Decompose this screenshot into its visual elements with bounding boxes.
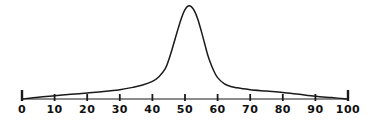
x-axis-tick-label: 20 <box>79 104 95 115</box>
x-axis-tick-label: 90 <box>307 104 323 115</box>
x-axis-tick-label: 40 <box>144 104 160 115</box>
distribution-curve-path <box>22 6 348 99</box>
x-axis-tick-label: 50 <box>177 104 193 115</box>
x-axis-tick-label: 60 <box>209 104 225 115</box>
data-series-group <box>22 6 348 99</box>
x-axis-tick-label: 70 <box>242 104 258 115</box>
x-axis-tick-label: 30 <box>112 104 128 115</box>
axis-group <box>22 90 348 101</box>
x-axis-tick-label: 80 <box>275 104 291 115</box>
x-axis-tick-label: 0 <box>18 104 26 115</box>
chart-figure: 0102030405060708090100 <box>0 0 370 127</box>
x-axis-tick-label: 10 <box>46 104 62 115</box>
x-axis-tick-label: 100 <box>336 104 360 115</box>
